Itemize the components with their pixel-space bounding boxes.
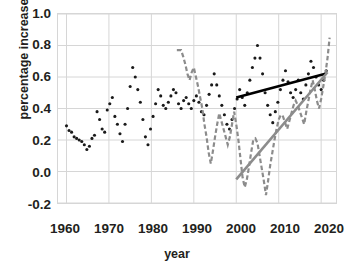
chart-figure: percentage increase year 1.0 0.8 0.6 0.4… xyxy=(0,0,354,269)
x-axis-title: year xyxy=(127,247,227,261)
y-tick-label: -0.2 xyxy=(0,198,51,212)
y-tick-label: 0.2 xyxy=(5,134,51,148)
y-tick-label: 0.8 xyxy=(5,38,51,52)
y-tick-label: 1.0 xyxy=(5,7,51,21)
ghost-header-artifact xyxy=(118,0,348,9)
x-tick-label: 2020 xyxy=(302,222,354,236)
y-tick-label: 0.4 xyxy=(5,102,51,116)
series-gray-trendline xyxy=(236,72,327,179)
series-black-dotted-scatter xyxy=(65,44,328,151)
y-tick-label: 0.6 xyxy=(5,70,51,84)
plot-canvas xyxy=(58,14,336,203)
plot-area xyxy=(57,13,337,204)
gridlines xyxy=(58,14,336,203)
y-tick-label: 0.0 xyxy=(5,166,51,180)
